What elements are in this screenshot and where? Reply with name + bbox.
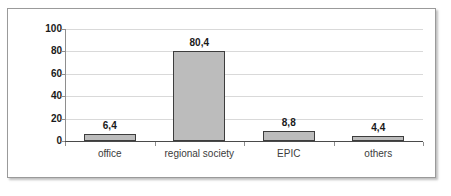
x-axis-tick <box>244 142 245 146</box>
bar-value-label: 6,4 <box>70 120 150 131</box>
x-axis-tick <box>334 142 335 146</box>
y-axis-tick-label: 0 <box>22 136 62 146</box>
gridline <box>66 74 423 75</box>
x-axis-tick <box>155 142 156 146</box>
bar-office[interactable] <box>84 134 136 141</box>
gridline <box>66 51 423 52</box>
x-axis-tick <box>423 142 424 146</box>
bar-value-label: 4,4 <box>338 122 418 133</box>
bar-regional-society[interactable] <box>173 51 225 141</box>
chart-frame: 020406080100 6,480,48,84,4 officeregiona… <box>7 8 436 178</box>
bar-others[interactable] <box>352 136 404 141</box>
category-label-others: others <box>323 148 433 160</box>
y-axis-tick-label: 60 <box>22 69 62 79</box>
y-axis-line <box>65 29 66 142</box>
y-axis-tick-label: 80 <box>22 46 62 56</box>
gridline <box>66 96 423 97</box>
x-axis-tick <box>65 142 66 146</box>
bar-value-label: 80,4 <box>159 37 239 48</box>
y-axis-tick-label: 40 <box>22 91 62 101</box>
bar-value-label: 8,8 <box>249 117 329 128</box>
chart-plot-area: 020406080100 6,480,48,84,4 officeregiona… <box>8 9 437 179</box>
bar-epic[interactable] <box>263 131 315 141</box>
y-axis-tick-label: 20 <box>22 114 62 124</box>
y-axis-tick-label: 100 <box>22 24 62 34</box>
gridline <box>66 29 423 30</box>
